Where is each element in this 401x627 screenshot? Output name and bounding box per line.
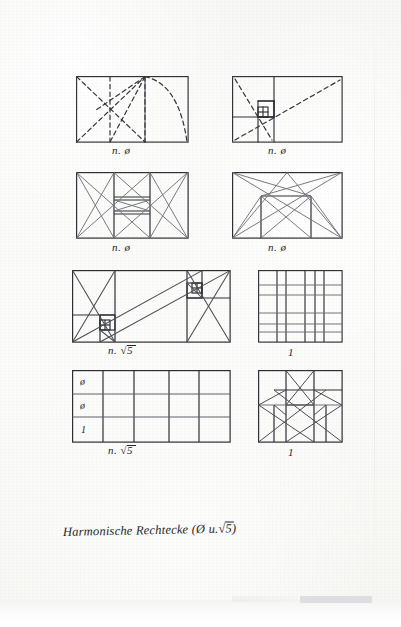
bottom-strip <box>0 600 401 627</box>
figure-3-phi-twin-squares <box>76 172 189 239</box>
figure-1-caption-text: n. ø <box>112 144 131 156</box>
figure-6-caption: 1 <box>288 346 294 358</box>
figure-3-caption: n. ø <box>112 241 131 253</box>
figure-8-unit-star <box>258 370 343 443</box>
figure-8-caption: 1 <box>288 446 294 458</box>
figure-1-phi-dashed <box>76 76 189 143</box>
figure-1-caption: n. ø <box>112 144 131 156</box>
watermark-ghost-text <box>232 596 298 602</box>
figure-1-svg <box>76 76 189 143</box>
figure-7-row-label-0-text: ø <box>80 376 85 387</box>
figure-7-row-label-1-text: ø <box>80 400 85 411</box>
fig3-pencil-diagonals <box>77 173 188 238</box>
figure-7-caption-prefix: n. <box>108 444 117 456</box>
figure-7-root5-grid <box>72 370 231 443</box>
fig1-outer-rect <box>77 77 189 143</box>
fig8-star-lines <box>259 371 342 442</box>
figure-5-caption: n. √5 <box>108 344 133 356</box>
figure-4-caption: n. ø <box>268 241 287 253</box>
figure-7-caption: n. √5 <box>108 444 133 456</box>
radical-overbar <box>127 345 136 346</box>
paper-edge-line <box>374 0 375 600</box>
fig4-pencil-diagonals <box>233 173 342 238</box>
figure-2-svg <box>232 76 343 143</box>
figure-4-phi-inscribed <box>232 172 343 239</box>
figure-6-svg <box>258 270 343 343</box>
figure-8-svg <box>258 370 343 443</box>
sheet-title-conjunction: u. <box>208 522 218 536</box>
figure-4-caption-text: n. ø <box>268 241 287 253</box>
radical-overbar <box>225 521 234 522</box>
sheet-title-paren-close: ) <box>232 521 237 535</box>
figure-5-caption-prefix: n. <box>108 344 117 356</box>
fig1-dashed-lines <box>77 77 187 142</box>
figure-2-caption-text: n. ø <box>268 144 287 156</box>
sheet-title-main: Harmonische Rechtecke <box>63 522 189 539</box>
fig5-outer-rect <box>73 271 231 343</box>
figure-8-caption-text: 1 <box>288 446 294 458</box>
figure-5-caption-root: √5 <box>121 344 134 356</box>
fig5-diagonals <box>73 271 230 342</box>
figure-2-phi-spiral <box>232 76 343 143</box>
figure-5-root5-spiral <box>72 270 231 343</box>
figure-3-svg <box>76 172 189 239</box>
figure-6-caption-text: 1 <box>288 346 294 358</box>
figure-7-caption-root: √5 <box>121 444 134 456</box>
figure-6-unit-grid <box>258 270 343 343</box>
fig2-dashed-lines <box>235 79 340 140</box>
figure-7-row-label-0: ø <box>80 376 85 387</box>
figure-7-row-label-1: ø <box>80 400 85 411</box>
fig7-outer-rect <box>73 371 231 443</box>
watermark-badge <box>300 596 372 603</box>
figure-2-caption: n. ø <box>268 144 287 156</box>
figure-7-row-label-2: 1 <box>81 424 86 435</box>
fig6-outer-rect <box>259 271 343 343</box>
sheet-title-root: √5 <box>218 521 232 536</box>
fig2-sq3 <box>258 101 274 117</box>
fig8-outer-rect <box>259 371 343 443</box>
radical-overbar <box>127 445 136 446</box>
figure-7-svg <box>72 370 231 443</box>
figure-5-svg <box>72 270 231 343</box>
figure-3-caption-text: n. ø <box>112 241 131 253</box>
figure-7-row-label-2-text: 1 <box>81 424 86 435</box>
figure-4-svg <box>232 172 343 239</box>
sheet-title-root-text: √5 <box>218 521 232 535</box>
sheet-title-phi: Ø <box>196 522 206 536</box>
